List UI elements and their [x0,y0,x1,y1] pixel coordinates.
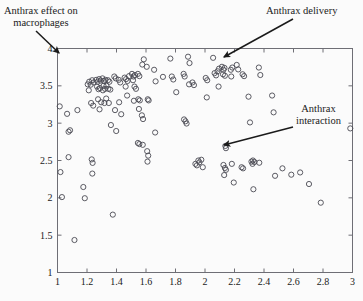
x-tick-label: 2.6 [287,276,300,287]
y-tick-label: 2 [48,192,53,203]
y-tick-label: 1.5 [40,230,53,241]
annotation-line-2: interaction [296,115,341,127]
x-tick-label: 2.8 [317,276,330,287]
annotation-line-1: Anthrax effect on [4,5,78,16]
x-tick-label: 3 [350,276,355,287]
annotation-anthrax-interaction: Anthrax interaction [296,103,341,127]
x-tick-label: 1.8 [169,276,182,287]
x-tick-label: 1.4 [110,276,123,287]
annotation-anthrax-effect-on-macrophages: Anthrax effect on macrophages [4,5,78,29]
plot-background [0,0,363,301]
y-tick-label: 3.5 [40,80,53,91]
figure-canvas: 11.21.41.61.822.22.42.62.83 11.522.533.5… [0,0,363,301]
annotation-line-1: Anthrax delivery [266,5,337,16]
y-tick-label: 1 [48,267,53,278]
x-tick-label: 1.6 [140,276,153,287]
x-tick-label: 2.2 [228,276,241,287]
x-tick-label: 1 [55,276,60,287]
x-tick-label: 2 [203,276,208,287]
y-tick-label: 3 [48,118,53,129]
x-tick-label: 1.2 [81,276,94,287]
annotation-line-1: Anthrax [301,103,335,114]
annotation-anthrax-delivery: Anthrax delivery [266,5,337,17]
annotation-line-2: macrophages [4,17,78,29]
scatter-plot-svg: 11.21.41.61.822.22.42.62.83 11.522.533.5… [0,0,363,301]
x-tick-label: 2.4 [258,276,271,287]
y-tick-label: 2.5 [40,155,53,166]
